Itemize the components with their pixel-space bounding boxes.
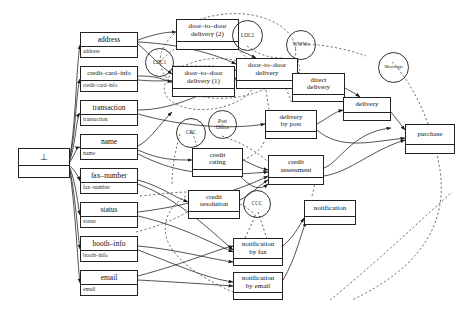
process-body (344, 112, 390, 121)
process-title: door–to–door delivery (1) (173, 67, 234, 88)
agent-label: CCC (252, 201, 262, 206)
entity-attribute: credit–card–info (81, 80, 137, 91)
process-title: door–to–door delivery (2) (177, 20, 238, 41)
process-title-line: delivery (2) (191, 31, 224, 38)
process-body (305, 216, 355, 225)
entity-title: booth–info (81, 237, 137, 250)
agent-node-crc[interactable]: CRC (176, 118, 206, 148)
entity-title: address (81, 33, 137, 46)
process-title: notification by email (234, 273, 282, 292)
root-node-body (19, 165, 69, 178)
process-body (406, 144, 454, 153)
process-node-notification-by-email[interactable]: notification by email (233, 272, 283, 300)
process-node-purchase[interactable]: purchase (405, 124, 455, 154)
process-title-line: by fax (249, 249, 267, 256)
entity-title: fax–number (81, 169, 137, 182)
agent-label: Office (216, 125, 229, 130)
entity-attribute: name (81, 148, 137, 159)
agent-node-mississippi[interactable]: Mississippi (378, 52, 409, 83)
entity-node-fax-number[interactable]: fax–number fax–number (80, 168, 138, 194)
agent-node-ccc[interactable]: CCC (243, 190, 271, 218)
process-title-line: by post (281, 121, 301, 128)
process-body (189, 211, 239, 220)
process-title: direct delivery (293, 74, 344, 94)
process-title: notification (305, 201, 355, 216)
entity-attribute: status (81, 216, 137, 227)
process-node-door-to-door-delivery[interactable]: door–to–door delivery (236, 58, 298, 89)
process-title-line: delivery (307, 84, 330, 91)
process-node-notification[interactable]: notification (304, 200, 356, 225)
process-title-line: rating (209, 159, 225, 166)
agent-node-wwws[interactable]: WWWs (286, 30, 316, 60)
entity-title: status (81, 203, 137, 216)
process-body (173, 88, 234, 97)
entity-node-transaction[interactable]: transaction transaction (80, 100, 138, 126)
process-title: credit rating (193, 149, 242, 169)
process-node-credit-resolution[interactable]: credit resolution (188, 190, 240, 219)
entity-node-booth-info[interactable]: booth–info booth–info (80, 236, 138, 262)
process-body (193, 169, 242, 178)
agent-label: LDC1 (153, 60, 166, 65)
process-title-line: delivery (256, 70, 279, 77)
process-body (266, 131, 316, 140)
entity-node-address[interactable]: address address (80, 32, 138, 58)
entity-attribute: booth–info (81, 250, 137, 261)
process-node-delivery-by-post[interactable]: delivery by post (265, 110, 317, 139)
process-body (237, 80, 297, 89)
process-node-door-to-door-delivery-1[interactable]: door–to–door delivery (1) (172, 66, 235, 97)
process-node-direct-delivery[interactable]: direct delivery (292, 73, 345, 102)
process-title-line: resolution (200, 201, 228, 208)
process-title-line: by email (246, 283, 270, 290)
process-node-credit-rating[interactable]: credit rating (192, 148, 243, 177)
process-body (293, 94, 344, 103)
agent-label: Mississippi (384, 65, 402, 69)
entity-node-name[interactable]: name name (80, 134, 138, 160)
process-title: delivery by post (266, 111, 316, 131)
process-title-line: delivery (1) (187, 78, 220, 85)
process-node-door-to-door-delivery-2[interactable]: door–to–door delivery (2) (176, 19, 239, 50)
entity-title: credit–card–info (81, 67, 137, 80)
process-title: delivery (344, 98, 390, 112)
diagram-canvas: ⊥ address address credit–card–info credi… (0, 0, 471, 320)
process-title: credit resolution (189, 191, 239, 211)
process-title: purchase (406, 125, 454, 144)
process-title: door–to–door delivery (237, 59, 297, 80)
agent-label: LDC2 (241, 33, 254, 38)
agent-node-post-office[interactable]: Post Office (208, 110, 237, 139)
process-body (234, 292, 282, 301)
process-node-notification-by-fax[interactable]: notification by fax (233, 238, 283, 266)
entity-node-credit-card-info[interactable]: credit–card–info credit–card–info (80, 66, 138, 92)
entity-attribute: email (81, 284, 137, 295)
root-node-bottom[interactable]: ⊥ (18, 148, 70, 178)
agent-node-ldc2[interactable]: LDC2 (232, 20, 263, 51)
entity-attribute: address (81, 46, 137, 57)
agent-node-ldc1[interactable]: LDC1 (145, 48, 174, 77)
entity-attribute: transaction (81, 114, 137, 125)
agent-label: CRC (186, 130, 196, 135)
process-node-credit-assessment[interactable]: credit assessment (268, 155, 324, 185)
process-title: notification by fax (234, 239, 282, 258)
process-body (269, 177, 323, 186)
entity-title: email (81, 271, 137, 284)
entity-attribute: fax–number (81, 182, 137, 193)
entity-node-email[interactable]: email email (80, 270, 138, 296)
process-body (234, 258, 282, 267)
entity-title: name (81, 135, 137, 148)
agent-label: WWWs (293, 42, 310, 47)
entity-title: transaction (81, 101, 137, 114)
process-title: credit assessment (269, 156, 323, 177)
process-node-delivery[interactable]: delivery (343, 97, 391, 121)
process-title-line: assessment (280, 167, 311, 174)
root-to-attribute-edges (70, 45, 80, 283)
entity-node-status[interactable]: status status (80, 202, 138, 228)
process-body (177, 41, 238, 50)
root-node-label: ⊥ (19, 149, 69, 165)
